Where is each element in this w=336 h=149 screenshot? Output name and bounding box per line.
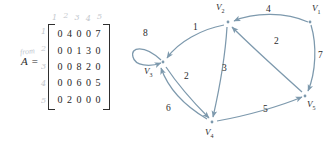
- matrix-row-index: 1: [41, 27, 46, 36]
- matrix-left-bracket: [48, 24, 55, 110]
- matrix-name-label: A =: [21, 55, 39, 67]
- vertex-dot-v1: [309, 21, 312, 24]
- vertex-label-v1: V1: [312, 3, 321, 15]
- matrix-row: 0 0 6 0 5: [56, 78, 102, 88]
- matrix-cell: 0: [56, 46, 64, 56]
- matrix-cell: 0: [94, 46, 102, 56]
- edge-weight-v4-v3: 6: [166, 103, 171, 113]
- matrix-cell: 5: [94, 78, 102, 88]
- matrix-cell: 3: [85, 46, 93, 56]
- matrix-cell: 0: [56, 95, 64, 105]
- matrix-name: A: [21, 55, 28, 67]
- vertex-label-v4: V4: [205, 127, 214, 139]
- edge-v1-v5: [308, 25, 315, 91]
- matrix-cell: 2: [85, 62, 93, 72]
- matrix-row-indices: 1 2 3 4 5: [41, 27, 46, 105]
- matrix-col-index: 5: [97, 12, 102, 21]
- matrix-row: 0 0 8 2 0: [56, 62, 102, 72]
- matrix-cell: 0: [94, 62, 102, 72]
- vertex-dot-v5: [304, 95, 307, 98]
- edge-v3-self-loop: [133, 49, 161, 65]
- matrix-cell: 8: [75, 62, 83, 72]
- edge-weight-v2-v3: 1: [193, 22, 198, 32]
- vertex-dot-v4: [211, 121, 214, 124]
- edge-weight-v1-v2: 4: [266, 4, 271, 14]
- matrix-row-index: 5: [41, 96, 46, 105]
- matrix-cell: 0: [75, 95, 83, 105]
- matrix-cell: 0: [56, 29, 64, 39]
- matrix-right-bracket: [103, 24, 110, 110]
- matrix-bracketed-body: 0 4 0 0 7 0 0 1 3 0 0 0 8 2: [48, 24, 110, 110]
- edge-v4-v5: [217, 97, 302, 121]
- matrix-row: 0 2 0 0 0: [56, 95, 102, 105]
- edge-weight-v4-v5: 5: [263, 104, 268, 114]
- matrix-cell: 0: [66, 78, 74, 88]
- figure-root: from 1 2 3 4 5 1 2 3 4 5 A = 0 4 0 0: [0, 0, 336, 149]
- matrix-cell: 1: [75, 46, 83, 56]
- adjacency-matrix-panel: from 1 2 3 4 5 1 2 3 4 5 A = 0 4 0 0: [0, 0, 140, 149]
- edge-v5-v2: [232, 27, 302, 92]
- matrix-col-index: 2: [63, 11, 68, 20]
- matrix-cell: 0: [85, 78, 93, 88]
- matrix-row-index: 2: [41, 44, 46, 53]
- edge-weight-v1-v5: 7: [318, 50, 323, 60]
- matrix-cell: 2: [66, 95, 74, 105]
- matrix-row-index: 3: [41, 62, 46, 71]
- matrix-col-index: 1: [52, 13, 57, 22]
- matrix-cell: 4: [66, 29, 74, 39]
- matrix-row: 0 4 0 0 7: [56, 29, 102, 39]
- matrix-equals: =: [31, 55, 39, 67]
- matrix-row-index: 4: [41, 79, 46, 88]
- matrix-cell: 0: [85, 29, 93, 39]
- matrix-column-indices: 1 2 3 4 5: [52, 13, 102, 22]
- edge-weight-v5-v2: 2: [274, 36, 279, 46]
- matrix-cell: 0: [94, 95, 102, 105]
- vertex-dot-v3: [162, 61, 165, 64]
- directed-graph-panel: V1 V2 V3 V4 V5 4 7 1 3 8 2 6 5 2: [126, 0, 336, 149]
- vertex-label-v2: V2: [216, 2, 225, 14]
- vertex-dot-v2: [227, 21, 230, 24]
- vertex-label-v3: V3: [144, 66, 153, 78]
- matrix-col-index: 4: [86, 14, 91, 23]
- matrix-cell: 6: [75, 78, 83, 88]
- edge-v1-v2: [234, 14, 308, 22]
- matrix-cell: 0: [85, 95, 93, 105]
- matrix-cell: 0: [66, 46, 74, 56]
- matrix-cell: 0: [56, 62, 64, 72]
- edge-weight-v2-v4: 3: [222, 63, 227, 73]
- vertex-label-v5: V5: [307, 99, 316, 111]
- edge-weight-v3-v4: 2: [184, 71, 189, 81]
- edge-weight-v3-self-loop: 8: [143, 28, 148, 38]
- matrix-cell: 0: [75, 29, 83, 39]
- matrix-col-index: 3: [74, 13, 79, 22]
- graph-svg: [126, 0, 336, 149]
- matrix-rows: 0 4 0 0 7 0 0 1 3 0 0 0 8 2: [56, 26, 102, 108]
- matrix-row: 0 0 1 3 0: [56, 46, 102, 56]
- matrix-cell: 0: [66, 62, 74, 72]
- matrix-cell: 7: [94, 29, 102, 39]
- matrix-cell: 0: [56, 78, 64, 88]
